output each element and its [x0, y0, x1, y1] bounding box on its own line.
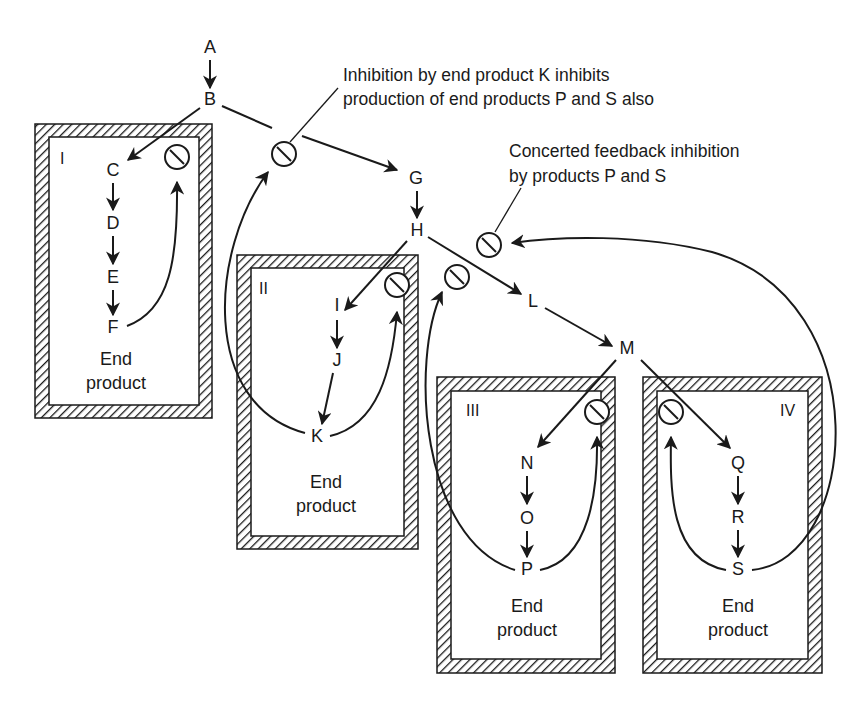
end-product-I-line1: End	[100, 349, 132, 369]
annotation-concerted-line2: by products P and S	[509, 166, 666, 186]
callout-leader-concerted	[495, 188, 521, 232]
inhibitor-icon-III	[585, 400, 609, 424]
node-L: L	[528, 291, 538, 311]
node-R: R	[732, 507, 745, 527]
inhibitor-icon-B-G	[272, 142, 296, 166]
compartment-label-IV: IV	[780, 402, 795, 419]
inhibitor-icon-concerted	[477, 233, 501, 257]
inhibitor-icon-IV	[659, 400, 683, 424]
node-N: N	[521, 453, 534, 473]
node-B: B	[204, 89, 216, 109]
annotation-concerted-line1: Concerted feedback inhibition	[509, 141, 740, 161]
end-product-III-line2: product	[497, 620, 557, 640]
inhibitor-icon-I	[165, 145, 189, 169]
end-product-III-line1: End	[511, 596, 543, 616]
inhibitor-icon-H-L	[445, 265, 469, 289]
node-G: G	[409, 168, 423, 188]
feedback-inhibition-diagram: I II III IV	[0, 0, 844, 702]
compartment-label-II: II	[259, 280, 268, 297]
node-F: F	[108, 317, 119, 337]
node-O: O	[520, 508, 534, 528]
end-product-IV-line2: product	[708, 620, 768, 640]
compartment-label-I: I	[60, 150, 64, 167]
node-M: M	[620, 338, 635, 358]
end-product-I-line2: product	[86, 373, 146, 393]
node-P: P	[521, 559, 533, 579]
node-D: D	[107, 213, 120, 233]
end-product-II-line1: End	[310, 472, 342, 492]
node-I: I	[334, 295, 339, 315]
annotation-k-inhibition-line1: Inhibition by end product K inhibits	[343, 65, 610, 85]
node-J: J	[333, 350, 342, 370]
compartment-label-III: III	[466, 402, 479, 419]
node-H: H	[411, 220, 424, 240]
node-A: A	[204, 37, 216, 57]
node-C: C	[107, 160, 120, 180]
end-product-IV-line1: End	[722, 596, 754, 616]
node-S: S	[732, 559, 744, 579]
end-product-II-line2: product	[296, 496, 356, 516]
annotation-k-inhibition-line2: production of end products P and S also	[343, 89, 654, 109]
node-K: K	[311, 426, 323, 446]
node-E: E	[107, 267, 119, 287]
callout-leader-k	[290, 88, 338, 142]
inhibitor-icon-II	[385, 273, 409, 297]
node-Q: Q	[731, 453, 745, 473]
